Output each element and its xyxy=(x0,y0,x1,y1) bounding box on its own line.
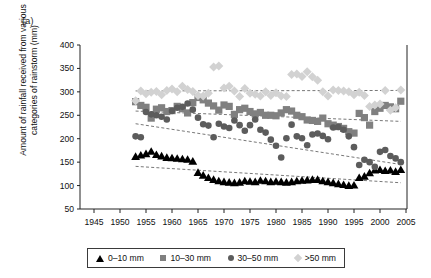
y-tick-label: 250 xyxy=(60,110,75,120)
data-point-circle xyxy=(346,133,353,140)
series-4 xyxy=(131,62,405,115)
data-point-circle xyxy=(252,116,259,123)
data-point-diamond xyxy=(381,86,390,95)
data-point-diamond xyxy=(235,92,244,101)
data-point-square xyxy=(226,103,233,110)
x-tick-label: 2000 xyxy=(370,217,389,227)
data-point-circle xyxy=(366,159,373,166)
data-point-circle xyxy=(138,134,145,141)
data-point-circle xyxy=(190,106,197,113)
legend-item[interactable]: >50 mm xyxy=(295,253,336,263)
y-tick-label: 350 xyxy=(60,63,75,73)
legend-item[interactable]: 10–30 mm xyxy=(160,253,211,263)
data-point-circle xyxy=(231,117,238,124)
data-point-square xyxy=(366,122,373,129)
x-tick-label: 1990 xyxy=(318,217,337,227)
data-point-circle xyxy=(278,154,285,161)
x-tick-label: 1950 xyxy=(110,217,129,227)
data-point-circle xyxy=(356,162,363,169)
data-point-circle xyxy=(304,142,311,149)
data-point-circle xyxy=(325,136,332,143)
data-point-circle xyxy=(164,116,171,123)
data-point-circle xyxy=(398,159,405,166)
data-point-circle xyxy=(351,144,358,151)
x-tick-label: 1985 xyxy=(292,217,311,227)
square-icon xyxy=(160,255,166,261)
data-point-circle xyxy=(382,147,389,154)
data-point-triangle xyxy=(396,165,405,173)
series-1 xyxy=(131,147,405,189)
legend-item-label: 0–10 mm xyxy=(108,253,144,263)
data-point-diamond xyxy=(396,85,405,94)
data-point-diamond xyxy=(282,92,291,101)
x-tick-label: 1980 xyxy=(266,217,285,227)
triangle-up-icon xyxy=(96,255,104,262)
data-point-square xyxy=(397,98,404,105)
data-point-circle xyxy=(268,136,275,143)
scatter-plot: 5010015020025030035040019451950195519601… xyxy=(0,0,431,278)
y-tick-label: 200 xyxy=(60,134,75,144)
x-tick-label: 1945 xyxy=(84,217,103,227)
legend-item-label: 10–30 mm xyxy=(170,253,211,263)
data-point-circle xyxy=(184,100,191,107)
data-point-circle xyxy=(262,129,269,136)
series-2 xyxy=(132,94,404,137)
x-tick-label: 2005 xyxy=(396,217,415,227)
legend-item-label: 30–50 mm xyxy=(238,253,279,263)
legend-item-label: >50 mm xyxy=(305,253,336,263)
legend-item[interactable]: 0–10 mm xyxy=(96,253,144,263)
data-point-circle xyxy=(372,164,379,171)
data-point-circle xyxy=(273,142,280,149)
data-point-circle xyxy=(242,127,249,134)
legend-item[interactable]: 30–50 mm xyxy=(228,253,279,263)
y-tick-label: 100 xyxy=(60,181,75,191)
data-point-circle xyxy=(247,122,254,129)
data-point-circle xyxy=(226,125,233,132)
x-tick-label: 1970 xyxy=(214,217,233,227)
y-tick-label: 400 xyxy=(60,40,75,50)
data-point-circle xyxy=(205,122,212,129)
y-tick-label: 150 xyxy=(60,157,75,167)
data-point-triangle xyxy=(350,181,359,189)
diamond-icon xyxy=(293,254,301,262)
chart-legend: 0–10 mm10–30 mm30–50 mm>50 mm xyxy=(87,248,345,268)
data-point-circle xyxy=(299,135,306,142)
x-tick-label: 1995 xyxy=(344,217,363,227)
data-point-circle xyxy=(340,127,347,134)
x-tick-label: 1960 xyxy=(162,217,181,227)
x-tick-label: 1975 xyxy=(240,217,259,227)
data-point-circle xyxy=(195,114,202,121)
x-tick-label: 1955 xyxy=(136,217,155,227)
circle-icon xyxy=(228,255,234,261)
data-point-circle xyxy=(236,122,243,129)
data-point-circle xyxy=(288,121,295,128)
data-point-triangle xyxy=(147,147,156,155)
data-point-circle xyxy=(210,134,217,141)
data-point-square xyxy=(361,114,368,121)
figure-panel: (a) Amount of rainfall received from var… xyxy=(0,0,431,278)
axes: 5010015020025030035040019451950195519601… xyxy=(60,40,416,227)
y-tick-label: 300 xyxy=(60,87,75,97)
y-tick-label: 50 xyxy=(64,204,74,214)
x-tick-label: 1965 xyxy=(188,217,207,227)
data-point-circle xyxy=(283,135,290,142)
